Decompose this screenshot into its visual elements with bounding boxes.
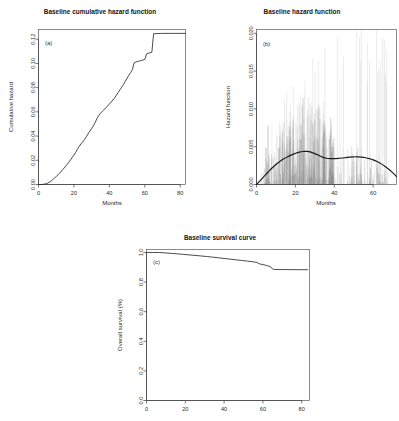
panel-c-overall-survival-curve <box>147 252 308 269</box>
panel-b-title: Baseline hazard function <box>209 8 395 15</box>
panel-b-y-axis: 0.0000.0050.0100.0150.020 <box>248 26 257 191</box>
svg-text:0.8: 0.8 <box>138 278 144 286</box>
svg-text:60: 60 <box>260 406 266 412</box>
svg-text:0.04: 0.04 <box>30 131 36 142</box>
panel-a-plot: 0.000.020.040.060.080.100.12 020406080 (… <box>0 0 200 212</box>
svg-text:0.010: 0.010 <box>248 102 254 116</box>
svg-text:0.12: 0.12 <box>30 34 36 45</box>
svg-text:40: 40 <box>331 190 337 196</box>
svg-text:0.00: 0.00 <box>30 179 36 190</box>
panel-a-x-axis: 020406080 <box>37 185 183 196</box>
svg-text:40: 40 <box>221 406 227 412</box>
panel-a-cumulative-hazard-curve <box>39 33 186 184</box>
panel-b-ylabel: Hazard function <box>225 86 231 128</box>
svg-text:20: 20 <box>292 190 298 196</box>
panel-c-survival-curve: Baseline survival curve 0.00.20.40.60.81… <box>100 228 399 421</box>
panel-a-title: Baseline cumulative hazard function <box>0 8 200 15</box>
panel-c-plot: 0.00.20.40.60.81.0 020406080 (c) Overall… <box>100 228 399 421</box>
svg-text:0.005: 0.005 <box>248 140 254 154</box>
panel-c-ylabel: Overall survival (%) <box>117 299 123 351</box>
panel-c-plot-frame <box>147 250 310 401</box>
svg-text:20: 20 <box>71 190 77 196</box>
panel-c-x-axis: 020406080 <box>145 401 305 412</box>
svg-text:0.4: 0.4 <box>138 337 144 345</box>
panel-a-xlabel: Months <box>102 200 122 206</box>
svg-text:0.020: 0.020 <box>248 26 254 40</box>
panel-b-xlabel: Months <box>316 200 336 206</box>
svg-text:0.10: 0.10 <box>30 58 36 69</box>
svg-text:0: 0 <box>37 190 40 196</box>
svg-text:20: 20 <box>182 406 188 412</box>
svg-text:0.000: 0.000 <box>248 178 254 192</box>
panel-b-hazard-function: Baseline hazard function 0.0000.0050.010… <box>199 0 399 212</box>
svg-text:0.2: 0.2 <box>138 367 144 375</box>
svg-text:60: 60 <box>142 190 148 196</box>
panel-a-cumulative-hazard: Baseline cumulative hazard function 0.00… <box>0 0 200 212</box>
svg-text:40: 40 <box>106 190 112 196</box>
svg-text:0.015: 0.015 <box>248 64 254 78</box>
panel-c-y-axis: 0.00.20.40.60.81.0 <box>138 249 147 405</box>
svg-text:0.08: 0.08 <box>30 82 36 93</box>
panel-a-tag: (a) <box>45 40 52 46</box>
svg-text:0.02: 0.02 <box>30 155 36 166</box>
panel-a-plot-frame <box>39 30 186 185</box>
svg-text:80: 80 <box>299 406 305 412</box>
panel-a-y-axis: 0.000.020.040.060.080.100.12 <box>30 34 39 190</box>
svg-text:1.0: 1.0 <box>138 249 144 257</box>
panel-c-title: Baseline survival curve <box>100 234 340 241</box>
svg-text:0: 0 <box>255 190 258 196</box>
svg-text:80: 80 <box>177 190 183 196</box>
panel-b-x-axis: 0204060 <box>255 185 376 196</box>
svg-text:0.0: 0.0 <box>138 397 144 405</box>
panel-a-ylabel: Cumulative hazard <box>8 82 14 132</box>
svg-text:0.6: 0.6 <box>138 308 144 316</box>
svg-text:0.06: 0.06 <box>30 106 36 117</box>
panel-b-tag: (b) <box>263 41 270 47</box>
svg-text:0: 0 <box>145 406 148 412</box>
panel-b-plot: 0.0000.0050.0100.0150.020 0204060 (b) Mo… <box>199 0 399 212</box>
figure-container: Baseline cumulative hazard function 0.00… <box>0 0 399 421</box>
panel-c-tag: (c) <box>153 259 160 265</box>
svg-text:60: 60 <box>370 190 376 196</box>
